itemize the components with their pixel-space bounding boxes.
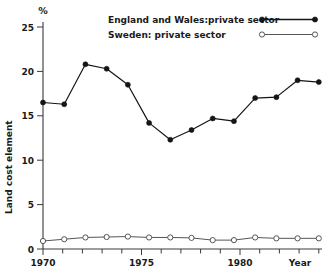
data-point bbox=[316, 236, 321, 241]
data-point bbox=[62, 102, 67, 107]
y-tick-label-5: 5 bbox=[28, 200, 34, 210]
series-sweden bbox=[40, 234, 321, 244]
legend: England and Wales:private sector Sweden:… bbox=[108, 15, 318, 40]
data-point bbox=[231, 238, 236, 243]
legend-marker-sweden-start bbox=[259, 32, 264, 37]
data-point bbox=[40, 238, 45, 243]
data-point bbox=[231, 119, 236, 124]
data-point bbox=[253, 96, 258, 101]
legend-label-sweden: Sweden: private sector bbox=[108, 30, 226, 40]
data-point bbox=[147, 120, 152, 125]
data-point bbox=[295, 236, 300, 241]
legend-label-england-wales: England and Wales:private sector bbox=[108, 15, 280, 25]
data-point bbox=[274, 236, 279, 241]
data-point bbox=[125, 82, 130, 87]
data-point bbox=[41, 100, 46, 105]
data-point bbox=[83, 235, 88, 240]
x-axis-title: Year bbox=[288, 258, 312, 268]
legend-marker-sweden-end bbox=[312, 32, 317, 37]
y-tick-label-0: 0 bbox=[28, 245, 34, 255]
data-point bbox=[210, 238, 215, 243]
data-point bbox=[125, 234, 130, 239]
y-axis-unit-label: % bbox=[38, 5, 48, 16]
data-point bbox=[316, 80, 321, 85]
data-point bbox=[253, 235, 258, 240]
series-layer bbox=[40, 62, 321, 244]
legend-marker-england-wales-start bbox=[259, 17, 264, 22]
data-point bbox=[295, 78, 300, 83]
x-tick-label-1970: 1970 bbox=[30, 258, 55, 268]
data-point bbox=[168, 235, 173, 240]
data-point bbox=[189, 235, 194, 240]
data-point bbox=[274, 95, 279, 100]
chart-container: 0 5 10 15 20 25 % Land cost element bbox=[0, 0, 329, 273]
data-point bbox=[210, 116, 215, 121]
land-cost-line-chart: 0 5 10 15 20 25 % Land cost element bbox=[0, 0, 329, 273]
data-point bbox=[62, 237, 67, 242]
series-england-wales bbox=[41, 62, 322, 142]
y-axis-ticks bbox=[37, 27, 43, 249]
y-tick-label-25: 25 bbox=[21, 23, 34, 33]
series-line bbox=[43, 64, 319, 139]
data-point bbox=[189, 128, 194, 133]
data-point bbox=[146, 235, 151, 240]
data-point bbox=[83, 62, 88, 67]
y-tick-label-15: 15 bbox=[21, 111, 34, 121]
legend-marker-england-wales-end bbox=[312, 17, 317, 22]
data-point bbox=[168, 137, 173, 142]
y-axis-title: Land cost element bbox=[4, 120, 14, 214]
data-point bbox=[104, 234, 109, 239]
x-tick-label-1980: 1980 bbox=[227, 258, 252, 268]
x-axis-ticks bbox=[43, 249, 319, 255]
data-point bbox=[104, 66, 109, 71]
y-tick-label-10: 10 bbox=[21, 156, 34, 166]
x-tick-label-1975: 1975 bbox=[129, 258, 154, 268]
y-tick-label-20: 20 bbox=[21, 67, 34, 77]
